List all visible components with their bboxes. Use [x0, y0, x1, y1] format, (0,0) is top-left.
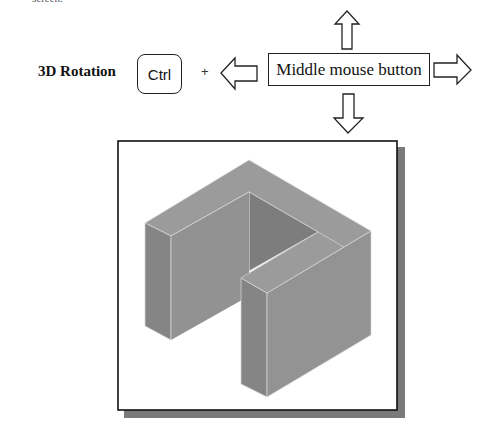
up-arrow-icon: [335, 11, 359, 49]
left-arrow-icon: [221, 58, 257, 89]
down-arrow-icon: [334, 94, 363, 133]
right-arrow-icon: [434, 55, 471, 84]
diagram-graphics: [0, 0, 485, 427]
